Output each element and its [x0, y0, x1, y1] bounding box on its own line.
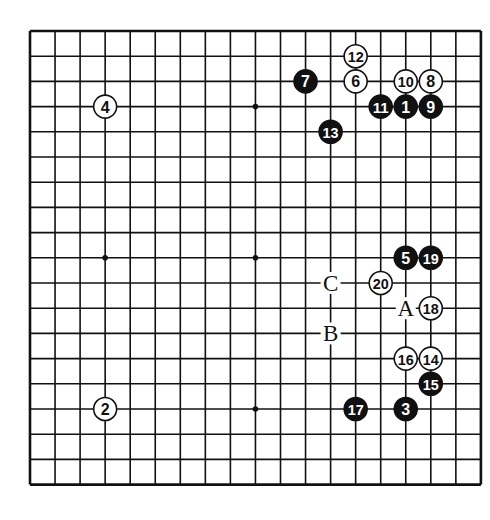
- black-stone-19: 19: [419, 246, 442, 269]
- white-stone-12: 12: [344, 45, 367, 68]
- black-stone-3: 3: [394, 398, 417, 421]
- white-stone-20: 20: [369, 272, 392, 295]
- black-stone-13: 13: [319, 120, 342, 143]
- marker-c: C: [321, 271, 341, 296]
- move-number: 13: [323, 125, 339, 141]
- move-number: 1: [401, 99, 410, 116]
- star-point: [253, 104, 259, 110]
- marker-label: C: [323, 271, 338, 296]
- move-number: 18: [423, 301, 439, 317]
- black-stone-15: 15: [419, 372, 442, 395]
- move-number: 14: [423, 352, 439, 368]
- black-stone-9: 9: [419, 95, 442, 118]
- move-number: 4: [101, 99, 110, 116]
- move-number: 15: [423, 377, 439, 393]
- star-point: [253, 255, 259, 261]
- move-number: 17: [348, 402, 364, 418]
- move-number: 16: [398, 352, 414, 368]
- marker-label: A: [397, 296, 414, 321]
- move-number: 8: [426, 73, 435, 90]
- black-stone-11: 11: [369, 95, 392, 118]
- white-stone-16: 16: [394, 347, 417, 370]
- move-number: 12: [348, 49, 364, 65]
- star-point: [102, 255, 108, 261]
- white-stone-4: 4: [94, 95, 117, 118]
- move-number: 20: [373, 276, 389, 292]
- move-number: 11: [373, 100, 389, 116]
- marker-label: B: [323, 321, 338, 346]
- white-stone-8: 8: [419, 70, 442, 93]
- move-number: 5: [401, 250, 410, 267]
- move-number: 7: [301, 73, 310, 90]
- black-stone-17: 17: [344, 398, 367, 421]
- white-stone-2: 2: [94, 398, 117, 421]
- marker-b: B: [321, 321, 341, 346]
- go-board: ABC 1234567891011121314151617181920: [0, 0, 490, 520]
- move-number: 19: [423, 251, 439, 267]
- move-number: 3: [401, 401, 410, 418]
- black-stone-5: 5: [394, 246, 417, 269]
- move-number: 9: [426, 99, 435, 116]
- black-stone-7: 7: [294, 70, 317, 93]
- white-stone-10: 10: [394, 70, 417, 93]
- white-stone-14: 14: [419, 347, 442, 370]
- black-stone-1: 1: [394, 95, 417, 118]
- move-number: 10: [398, 74, 414, 90]
- white-stone-6: 6: [344, 70, 367, 93]
- white-stone-18: 18: [419, 297, 442, 320]
- move-number: 2: [101, 401, 110, 418]
- star-point: [253, 406, 259, 412]
- marker-a: A: [396, 296, 416, 321]
- move-number: 6: [351, 73, 360, 90]
